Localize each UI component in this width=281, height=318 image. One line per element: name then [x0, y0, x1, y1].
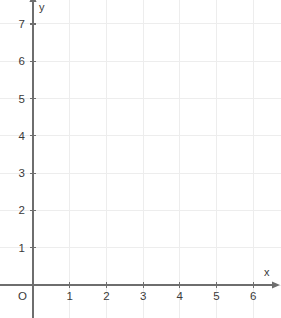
- x-tick-label: 1: [66, 290, 72, 302]
- x-tick-label: 6: [250, 290, 256, 302]
- x-tick-label: 5: [213, 290, 219, 302]
- y-tick-label: 5: [19, 93, 25, 105]
- x-axis-label: x: [264, 266, 270, 278]
- y-tick-label: 4: [19, 130, 26, 142]
- x-tick-label: 2: [103, 290, 109, 302]
- y-axis-arrowhead-icon: [29, 0, 36, 2]
- y-axis-label: y: [39, 1, 45, 13]
- y-tick-label: 2: [19, 204, 25, 216]
- x-tick-label: 3: [140, 290, 146, 302]
- x-axis-tick-labels: 123456: [66, 290, 256, 302]
- y-tick-label: 3: [19, 167, 25, 179]
- grid-lines-horizontal: [0, 24, 281, 285]
- x-tick-label: 4: [177, 290, 184, 302]
- coordinate-plane: 123456 1234567 x y O: [0, 0, 281, 318]
- coordinate-grid-svg: 123456 1234567 x y O: [0, 0, 281, 318]
- origin-label: O: [18, 290, 27, 302]
- grid-lines-vertical: [33, 0, 253, 318]
- y-tick-label: 7: [19, 18, 25, 30]
- y-tick-label: 6: [19, 55, 25, 67]
- y-axis-tick-labels: 1234567: [19, 18, 26, 254]
- x-axis-arrowhead-icon: [272, 281, 280, 288]
- y-tick-label: 1: [19, 242, 25, 254]
